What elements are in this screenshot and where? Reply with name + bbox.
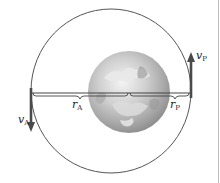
perigee-distance-label: rP xyxy=(170,99,180,112)
apogee-velocity-label: vA xyxy=(18,114,29,127)
perigee-velocity-label: vP xyxy=(196,50,207,63)
earth-icon xyxy=(88,51,170,133)
orbit-diagram: vA vP rA rP xyxy=(0,0,220,183)
diagram-svg xyxy=(0,0,220,183)
apogee-distance-label: rA xyxy=(72,99,82,112)
perigee-velocity-arrow xyxy=(187,52,195,98)
